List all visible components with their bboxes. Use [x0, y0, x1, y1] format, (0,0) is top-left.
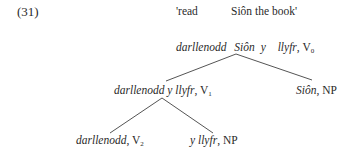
branch-root-left: [166, 54, 236, 81]
np-sion-category: NP: [322, 84, 337, 96]
branch-v1-left: [110, 98, 162, 133]
tree-node-np-sion: Siôn, NP: [296, 84, 337, 96]
root-subscript: 0: [311, 47, 315, 55]
branch-root-right: [236, 54, 312, 80]
root-category: V: [302, 41, 310, 53]
tree-branches: [0, 0, 346, 151]
root-word-sion: Siôn: [234, 41, 254, 53]
v2-comma: ,: [126, 134, 129, 146]
root-comma: ,: [297, 41, 300, 53]
root-word-darllenodd: darllenodd: [176, 41, 226, 53]
tree-node-root: darllenodd Siôn y llyfr, V0: [176, 41, 314, 55]
branch-v1-right: [162, 98, 213, 133]
np-llyfr-category: NP: [223, 134, 238, 146]
np-sion-word: Siôn: [296, 84, 316, 96]
v1-words: darllenodd y llyfr: [114, 84, 195, 96]
tree-node-v1: darllenodd y llyfr, V1: [114, 84, 212, 98]
np-llyfr-comma: ,: [217, 134, 220, 146]
v2-subscript: 2: [140, 140, 144, 148]
root-word-llyfr: llyfr: [278, 41, 297, 53]
v1-comma: ,: [195, 84, 198, 96]
tree-node-np-llyfr: y llyfr, NP: [190, 134, 238, 146]
v1-subscript: 1: [208, 90, 212, 98]
tree-node-v2: darllenodd, V2: [76, 134, 144, 148]
np-llyfr-words: y llyfr: [190, 134, 217, 146]
np-sion-comma: ,: [316, 84, 319, 96]
root-word-y: y: [261, 41, 266, 53]
v2-word: darllenodd: [76, 134, 126, 146]
